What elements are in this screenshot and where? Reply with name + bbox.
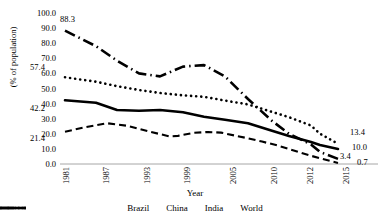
chart-container: (% of population) 100.0 90.0 80.0 70.0 6… (0, 0, 390, 223)
x-tick-label-2010: 2010 (269, 167, 279, 184)
legend-label-brazil: Brazil (127, 203, 149, 213)
x-tick-label-1999: 1999 (182, 167, 192, 184)
series-line-brazil (65, 123, 338, 163)
point-label-china-end: 3.4 (340, 152, 351, 161)
x-axis-title: Year (0, 188, 390, 198)
legend-item-world[interactable]: World (240, 203, 262, 213)
legend-label-china: China (166, 203, 188, 213)
legend-label-india: India (205, 203, 224, 213)
point-label-world-start: 42.2 (30, 104, 45, 113)
legend-swatch-solid-icon (0, 203, 26, 213)
point-label-india-end: 13.4 (350, 128, 365, 137)
point-label-china-start: 88.3 (60, 15, 75, 24)
series-line-india (65, 77, 338, 144)
x-tick-label-2015: 2015 (341, 167, 351, 184)
chart-legend: Brazil China India World (0, 203, 390, 213)
point-label-brazil-start: 21.4 (30, 134, 45, 143)
point-label-brazil-end: 0.7 (357, 158, 368, 167)
x-tick-label-2012: 2012 (305, 167, 315, 184)
legend-item-india[interactable]: India (205, 203, 224, 213)
x-tick-label-1981: 1981 (61, 167, 71, 184)
point-label-india-start: 57.4 (30, 63, 45, 72)
legend-label-world: World (240, 203, 262, 213)
x-tick-label-1987: 1987 (101, 167, 111, 184)
legend-item-china[interactable]: China (166, 203, 188, 213)
legend-item-brazil[interactable]: Brazil (127, 203, 149, 213)
series-line-china (65, 31, 338, 159)
series-line-world (65, 100, 338, 149)
x-tick-label-1993: 1993 (142, 167, 152, 184)
x-tick-label-2005: 2005 (228, 167, 238, 184)
point-label-world-end: 10.0 (352, 143, 367, 152)
